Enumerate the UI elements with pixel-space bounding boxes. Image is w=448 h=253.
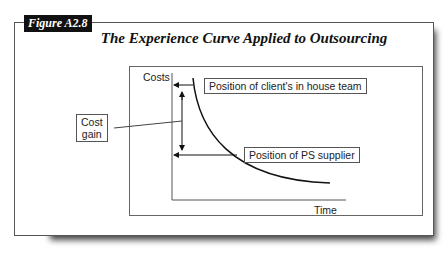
cost-gain-box: Cost gain [76, 114, 108, 142]
y-axis-label: Costs [143, 71, 170, 83]
supplier-position-callout: Position of PS supplier [244, 147, 360, 163]
x-axis-label: Time [314, 204, 337, 216]
experience-curve-diagram [0, 0, 448, 253]
client-position-callout: Position of client's in house team [204, 78, 367, 94]
